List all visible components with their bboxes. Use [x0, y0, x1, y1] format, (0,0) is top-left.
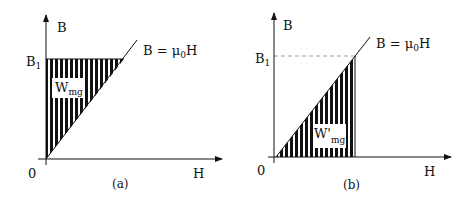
- caption-b: (b): [343, 178, 360, 192]
- panel-b: W'mg B H 0 B1 B = μ0H (b): [255, 13, 451, 192]
- caption-a: (a): [112, 177, 129, 191]
- origin-label: 0: [28, 166, 36, 181]
- b1-label: B1: [255, 51, 270, 68]
- x-axis-label: H: [193, 166, 204, 181]
- origin-label: 0: [257, 163, 265, 178]
- b1-label: B1: [26, 54, 41, 71]
- line-equation-label: B = μ0H: [143, 43, 197, 60]
- magnetic-energy-diagram: Wmg B H 0 B1 B = μ0H (a) W'mg B H 0 B1 B…: [0, 0, 473, 203]
- panel-a: Wmg B H 0 B1 B = μ0H (a): [26, 15, 222, 191]
- y-axis-label: B: [283, 18, 293, 33]
- line-equation-label: B = μ0H: [376, 36, 430, 53]
- y-axis-label: B: [57, 20, 67, 35]
- x-axis-label: H: [424, 164, 435, 179]
